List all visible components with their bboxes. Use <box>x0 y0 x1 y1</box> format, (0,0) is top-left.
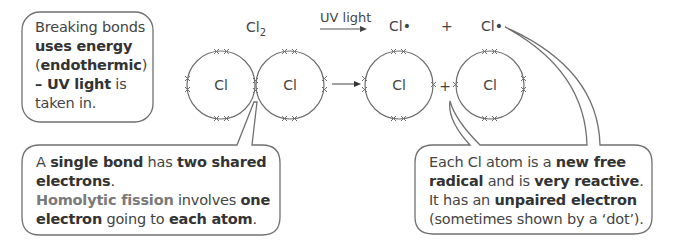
text-going-to: going to <box>102 211 169 227</box>
product-plus: + <box>441 18 453 34</box>
product-1-label: Cl• <box>389 18 411 34</box>
condition-label: UV light <box>320 10 371 25</box>
text-homolytic-fission: Homolytic fission <box>36 192 174 208</box>
radicals-plus: + <box>439 78 451 94</box>
text-dot-note: (sometimes shown by a ‘dot’). <box>429 211 644 227</box>
reactant-subscript: 2 <box>260 27 266 38</box>
reactant-formula: Cl2 <box>246 19 266 38</box>
text-has: has <box>143 154 177 170</box>
atom-label-radical-right: Cl <box>483 77 497 93</box>
text-uv-light: – UV light <box>35 76 111 92</box>
text-each-cl-atom: Each Cl atom is a <box>429 154 556 170</box>
text-single-bond: single bond <box>50 154 143 170</box>
reactant-symbol: Cl <box>246 19 260 35</box>
callout-text-endothermic: Breaking bonds uses energy (endothermic)… <box>35 18 153 113</box>
atom-label-molecule-left: Cl <box>214 77 228 93</box>
text-breaking-bonds: Breaking bonds <box>35 19 145 35</box>
text-and-is: and is <box>483 173 534 189</box>
text-very-reactive: very reactive <box>534 173 639 189</box>
text-each-atom: each atom <box>169 211 253 227</box>
text-a: A <box>36 154 50 170</box>
product-2-label: Cl• <box>481 18 503 34</box>
uv-arrow <box>320 26 367 32</box>
reaction-arrow <box>332 81 361 87</box>
text-period: . <box>110 173 114 189</box>
text-unpaired-electron: unpaired electron <box>495 192 637 208</box>
atom-label-molecule-right: Cl <box>283 77 297 93</box>
text-paren-close: ) <box>142 57 147 73</box>
callout-text-single-bond: A single bond has two shared electrons. … <box>36 153 276 229</box>
text-involves: involves <box>174 192 241 208</box>
callout-text-free-radical: Each Cl atom is a new free radical and i… <box>429 153 651 229</box>
text-endothermic: endothermic <box>40 57 141 73</box>
text-uses-energy: uses energy <box>35 38 132 54</box>
atom-label-radical-left: Cl <box>392 77 406 93</box>
text-period: . <box>252 211 256 227</box>
